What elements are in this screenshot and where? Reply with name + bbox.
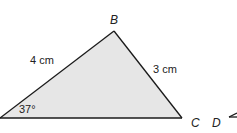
- vertex-label-d: D: [212, 116, 221, 130]
- vertex-label-b: B: [110, 13, 118, 27]
- vertex-label-c: C: [191, 116, 200, 130]
- angle-label-a: 37°: [19, 103, 36, 115]
- triangle-diagram: B C D 4 cm 3 cm 37°: [0, 0, 237, 133]
- side-label-bc: 3 cm: [153, 63, 177, 75]
- side-label-ab: 4 cm: [30, 54, 54, 66]
